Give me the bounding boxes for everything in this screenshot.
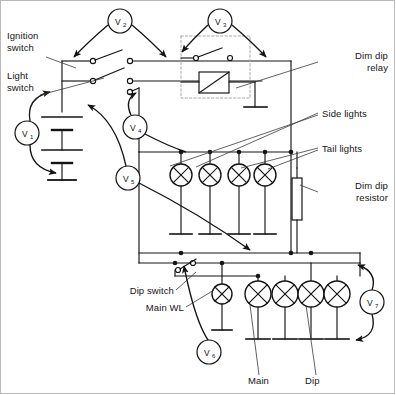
label-main-wl: Main WL [116,302,184,314]
label-ignition-switch: Ignition switch [7,30,38,54]
lower-bus [139,253,360,276]
light-switch-symbol [90,68,139,95]
ignition-switch-symbol [90,50,132,64]
svg-text:V: V [123,174,129,184]
v4-lead-right [143,133,186,152]
voltmeter-v4: V4 [123,115,147,139]
label-side-lights: Side lights [322,108,367,120]
supply-rails [62,61,291,263]
voltmeter-v1: V1 [15,121,39,145]
dim-dip-resistor [292,152,302,253]
svg-text:V: V [215,17,221,27]
voltmeter-v7: V7 [360,290,384,314]
voltmeter-v5: V5 [116,166,140,190]
label-tail-lights: Tail lights [322,143,362,155]
label-light-switch: Light switch [7,70,34,94]
leader-ignition-switch [46,57,76,68]
v2-lead-right [132,25,166,57]
label-dim-dip-relay: Dim dip relay [322,50,388,74]
label-dim-dip-resistor: Dim dip resistor [322,180,388,204]
relay-contacts [181,48,233,61]
svg-text:V: V [115,17,121,27]
label-dip: Dip [305,375,320,387]
label-leader-lines [40,57,318,375]
v5-lead-left [88,105,126,166]
label-main: Main [248,375,269,387]
v2-lead-left [74,25,108,57]
svg-text:V: V [22,129,28,139]
v3-lead-right [232,25,266,57]
leader-dim-dip-resistor [300,185,318,192]
circuit-diagram-canvas: V1 V2 V3 V4 V5 V6 V7 [0,0,396,395]
v4-lead-top [128,93,136,115]
dip-switch-symbol [176,259,197,273]
voltmeter-v2: V2 [108,9,132,33]
svg-text:V: V [367,298,373,308]
svg-text:V: V [204,348,210,358]
v6-lead [184,266,221,351]
leader-dim-dip-relay [236,62,318,88]
voltmeter-v3: V3 [208,9,232,33]
label-dip-switch: Dip switch [96,285,174,297]
v3-lead-left [182,25,208,52]
relay-coil [181,72,267,107]
voltmeter-v6: V6 [197,340,221,364]
v7-lead-bottom [356,314,373,340]
lower-lamp-group [212,263,350,339]
upper-lamp-group [170,152,276,234]
v5-lead-right [139,183,250,250]
svg-text:V: V [130,123,136,133]
